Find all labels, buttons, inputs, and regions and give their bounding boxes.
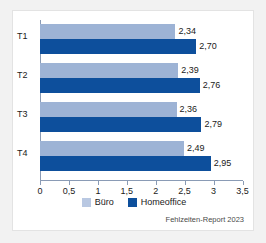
x-tick-mark xyxy=(40,181,41,185)
x-tick-mark xyxy=(156,181,157,185)
bar-homeoffice xyxy=(40,117,201,132)
bar-value-label: 2,95 xyxy=(214,156,232,171)
x-tick-label: 2 xyxy=(153,186,158,196)
bar-buero xyxy=(40,63,178,78)
x-tick-label: 1 xyxy=(95,186,100,196)
x-tick-mark xyxy=(185,181,186,185)
x-tick-label: 0 xyxy=(37,186,42,196)
x-tick-mark xyxy=(127,181,128,185)
bar-buero xyxy=(40,102,177,117)
legend-label: Homeoffice xyxy=(141,197,186,207)
category-label: T1 xyxy=(17,31,35,41)
bar-value-label: 2,79 xyxy=(204,117,222,132)
bar-homeoffice xyxy=(40,156,211,171)
bar-value-label: 2,36 xyxy=(180,102,198,117)
category-label: T3 xyxy=(17,109,35,119)
bar-value-label: 2,34 xyxy=(178,24,196,39)
x-tick-label: 0,5 xyxy=(63,186,76,196)
plot-area: T1 2,34 2,70 T2 2,39 2,76 T3 2,36 2,79 T… xyxy=(40,20,242,180)
legend-swatch-icon xyxy=(82,198,91,207)
x-tick-mark xyxy=(214,181,215,185)
chart-figure: T1 2,34 2,70 T2 2,39 2,76 T3 2,36 2,79 T… xyxy=(12,10,254,231)
x-tick-label: 3,5 xyxy=(236,186,249,196)
category-label: T2 xyxy=(17,70,35,80)
category-label: T4 xyxy=(17,148,35,158)
bar-value-label: 2,39 xyxy=(181,63,199,78)
bar-buero xyxy=(40,141,184,156)
bar-value-label: 2,49 xyxy=(187,141,205,156)
x-tick-mark xyxy=(69,181,70,185)
bar-homeoffice xyxy=(40,78,200,93)
x-tick-mark xyxy=(98,181,99,185)
x-tick-label: 2,5 xyxy=(178,186,191,196)
legend-label: Büro xyxy=(95,197,114,207)
chart-legend: Büro Homeoffice xyxy=(13,197,255,207)
x-tick-mark xyxy=(243,181,244,185)
source-note: Fehlzeiten-Report 2023 xyxy=(166,215,244,224)
bar-buero xyxy=(40,24,175,39)
x-axis-line xyxy=(40,180,243,181)
x-tick-label: 3 xyxy=(211,186,216,196)
bar-value-label: 2,76 xyxy=(203,78,221,93)
x-tick-label: 1,5 xyxy=(121,186,134,196)
bar-homeoffice xyxy=(40,39,196,54)
legend-item-buero: Büro xyxy=(82,197,114,207)
legend-swatch-icon xyxy=(128,198,137,207)
legend-item-homeoffice: Homeoffice xyxy=(128,197,186,207)
bar-value-label: 2,70 xyxy=(199,39,217,54)
